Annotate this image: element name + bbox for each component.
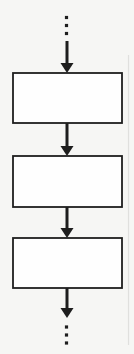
process-box-1 bbox=[13, 73, 122, 123]
ellipsis-bottom-dot-3 bbox=[65, 341, 68, 344]
ellipsis-top-dot-3 bbox=[65, 32, 68, 35]
process-box-2 bbox=[13, 156, 122, 207]
ellipsis-top-dot-2 bbox=[65, 24, 68, 27]
flowchart-canvas bbox=[0, 0, 134, 354]
ellipsis-bottom-dot-1 bbox=[65, 325, 68, 328]
ellipsis-bottom-dot-2 bbox=[65, 333, 68, 336]
flowchart-diagram bbox=[0, 0, 134, 354]
ellipsis-top-dot-1 bbox=[65, 16, 68, 19]
process-box-3 bbox=[13, 238, 122, 288]
